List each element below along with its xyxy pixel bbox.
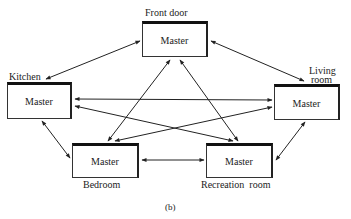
edge-frontdoor-bedroom [108, 60, 170, 141]
bedroom-master-box: Master [72, 143, 139, 178]
edge-frontdoor-recreation [180, 60, 238, 141]
edge-kitchen-recreation [75, 106, 233, 141]
edge-frontdoor-kitchen [46, 41, 140, 79]
edge-frontdoor-living [211, 41, 304, 81]
edge-living-bedroom [115, 107, 272, 141]
recreation-room-master-text: Master [225, 156, 253, 167]
recreation-room-master-box: Master [206, 143, 273, 178]
kitchen-label: Kitchen [9, 72, 41, 82]
living-room-master-text: Master [293, 98, 321, 109]
front-door-label: Front door [145, 8, 188, 18]
edge-kitchen-living [75, 99, 272, 100]
front-door-master-box: Master [142, 21, 208, 57]
bedroom-master-text: Master [91, 156, 119, 167]
living-room-master-box: Master [274, 84, 340, 120]
front-door-master-text: Master [161, 35, 189, 46]
edge-living-recreation [276, 122, 305, 160]
figure-caption: (b) [165, 202, 176, 212]
kitchen-master-text: Master [25, 96, 53, 107]
edge-kitchen-bedroom [42, 121, 70, 158]
kitchen-master-box: Master [7, 82, 72, 119]
recreation-room-label: Recreation room [201, 180, 270, 190]
bedroom-label: Bedroom [83, 180, 120, 190]
